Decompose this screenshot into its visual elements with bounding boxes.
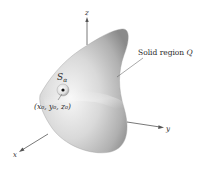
solid-region-q [40,29,129,153]
x-axis: x [13,134,48,159]
y-axis-label: y [165,125,171,133]
z-axis-label: z [84,9,89,17]
x-axis-label: x [13,151,17,159]
solid-region-diagram: z y x Sα (x₀, y₀, z₀) Solid region Q [0,0,210,173]
sphere-s-alpha [57,84,69,96]
region-label: Solid region Q [138,48,193,57]
y-axis: y [127,122,171,133]
point-label: (x₀, y₀, z₀) [34,102,71,111]
point-marker [61,88,64,91]
z-axis: z [84,9,89,45]
